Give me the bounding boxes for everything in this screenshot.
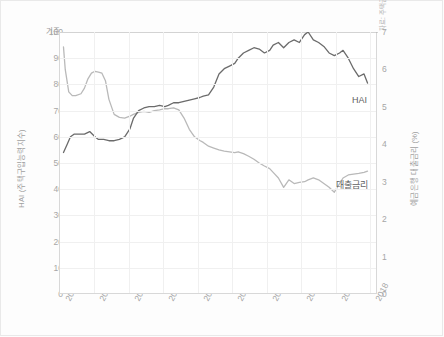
gridline-v-2011 [129,32,130,293]
gridline-h-50 [60,163,376,164]
gridline-h-10 [60,268,376,269]
y-axis-right-title: 예금은행 대출금리 (%) [408,109,419,229]
gridline-h-90 [60,58,376,59]
gridline-v-2010 [94,32,95,293]
series-label-loan-rate: 대출금리 [336,178,368,191]
gridline-h-30 [60,215,376,216]
gridline-v-2016 [301,32,302,293]
plot-area [59,32,377,294]
gridline-v-2018 [370,32,371,293]
gridline-v-2015 [267,32,268,293]
gridline-v-2013 [198,32,199,293]
y-tick-right-3: 3 [382,177,406,187]
chart-figure: HAI (주택구입능력지수) 예금은행 대출금리 (%) 자료: 주택금융공사 … [0,0,444,337]
y-tick-right-5: 5 [382,102,406,112]
y-tick-right-7: 7 [382,27,406,37]
line-loan-rate [63,47,367,192]
gridline-h-20 [60,242,376,243]
gridline-v-2012 [163,32,164,293]
gridline-v-2017 [336,32,337,293]
series-label-hai: HAI [352,95,367,105]
gridline-h-60 [60,137,376,138]
y-axis-left-title: HAI (주택구입능력지수) [15,109,26,229]
line-hai [63,32,367,153]
gridline-v-2014 [232,32,233,293]
y-tick-right-6: 6 [382,64,406,74]
y-tick-right-1: 1 [382,252,406,262]
gridline-h-70 [60,111,376,112]
y-tick-right-2: 2 [382,214,406,224]
y-tick-right-4: 4 [382,139,406,149]
gridline-h-80 [60,84,376,85]
gridline-h-40 [60,189,376,190]
